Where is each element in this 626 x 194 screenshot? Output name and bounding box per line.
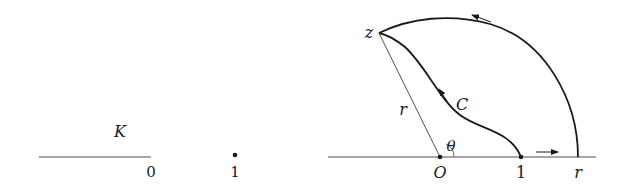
point-one [519,155,524,160]
curve-c-label: C [456,95,468,114]
angle-theta-label: θ [446,137,455,155]
r-axis-label: r [574,163,583,182]
one-label: 1 [516,163,526,182]
right-figure: z C r θ O 1 r [328,15,596,182]
point-origin [438,155,443,160]
point-one-label: 1 [230,163,240,181]
point-z-label: z [364,23,374,42]
origin-label: 0 [146,163,156,181]
point-one [233,153,238,158]
region-label-k: K [113,122,127,141]
diagram-canvas: K 0 1 z C r θ O 1 r [0,0,626,194]
circular-arc [379,18,578,157]
radius-label: r [399,100,408,119]
curve-direction-arrow-icon [439,89,447,101]
left-figure: K 0 1 [39,122,240,181]
origin-o-label: O [433,163,446,182]
